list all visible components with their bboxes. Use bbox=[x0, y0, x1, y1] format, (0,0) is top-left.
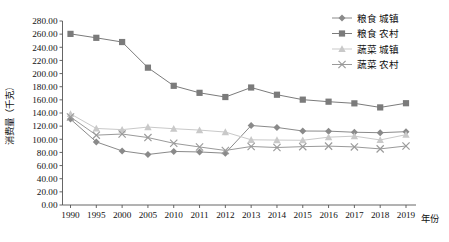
series-4 bbox=[67, 113, 410, 154]
data-point-marker bbox=[144, 151, 151, 158]
legend-item-3[interactable]: 蔬菜 城镇 bbox=[332, 44, 399, 55]
data-point-marker bbox=[274, 92, 280, 98]
data-point-marker bbox=[299, 128, 306, 135]
legend-item-4[interactable]: 蔬菜 农村 bbox=[332, 59, 399, 70]
data-point-marker bbox=[377, 104, 383, 110]
data-point-marker bbox=[119, 39, 125, 45]
data-point-marker bbox=[67, 31, 73, 37]
x-tick-label: 2013 bbox=[242, 210, 261, 220]
y-tick-label: 140.00 bbox=[32, 108, 58, 118]
legend-marker-square-icon bbox=[339, 30, 345, 36]
legend-label: 粮食 农村 bbox=[357, 28, 399, 39]
legend-item-1[interactable]: 粮食 城镇 bbox=[332, 13, 399, 24]
data-point-marker bbox=[325, 99, 331, 105]
y-tick-label: 260.00 bbox=[32, 29, 58, 39]
y-tick-label: 220.00 bbox=[32, 56, 58, 66]
y-tick-label: 160.00 bbox=[32, 95, 58, 105]
data-point-marker bbox=[351, 100, 357, 106]
y-tick-label: 20.00 bbox=[37, 187, 58, 197]
legend-item-2[interactable]: 粮食 农村 bbox=[332, 28, 399, 39]
data-point-marker bbox=[119, 147, 126, 154]
chart-legend: 粮食 城镇粮食 农村蔬菜 城镇蔬菜 农村 bbox=[332, 13, 399, 71]
y-tick-label: 200.00 bbox=[32, 69, 58, 79]
x-tick-label: 2005 bbox=[139, 210, 158, 220]
y-tick-label: 280.00 bbox=[32, 16, 58, 26]
x-tick-label: 1990 bbox=[61, 210, 80, 220]
y-tick-label: 240.00 bbox=[32, 43, 58, 53]
x-tick-label: 2017 bbox=[345, 210, 364, 220]
x-tick-label: 2014 bbox=[268, 210, 287, 220]
legend-label: 粮食 城镇 bbox=[357, 13, 399, 24]
line-chart: 0.0020.0040.0060.0080.00100.00120.00140.… bbox=[0, 0, 449, 242]
y-tick-label: 80.00 bbox=[37, 148, 58, 158]
x-tick-label: 2019 bbox=[397, 210, 416, 220]
legend-marker-diamond-icon bbox=[339, 15, 346, 22]
data-point-marker bbox=[403, 100, 409, 106]
legend-label: 蔬菜 城镇 bbox=[357, 44, 399, 55]
y-tick-label: 180.00 bbox=[32, 82, 58, 92]
data-point-marker bbox=[222, 94, 228, 100]
data-point-marker bbox=[300, 97, 306, 103]
data-point-marker bbox=[377, 129, 384, 136]
x-tick-label: 2010 bbox=[165, 210, 184, 220]
x-axis-tick-labels: 1990199520002005201020112012201320142015… bbox=[61, 210, 415, 220]
data-point-marker bbox=[171, 83, 177, 89]
y-tick-label: 100.00 bbox=[32, 135, 58, 145]
x-tick-label: 2018 bbox=[371, 210, 390, 220]
chart-container: 0.0020.0040.0060.0080.00100.00120.00140.… bbox=[0, 0, 449, 242]
y-tick-label: 120.00 bbox=[32, 121, 58, 131]
x-tick-label: 2011 bbox=[191, 210, 209, 220]
series-3 bbox=[67, 110, 410, 143]
y-tick-label: 0.00 bbox=[41, 200, 57, 210]
x-tick-label: 2015 bbox=[294, 210, 313, 220]
x-axis-title: 年份 bbox=[421, 213, 440, 224]
data-point-marker bbox=[248, 84, 254, 90]
y-tick-label: 40.00 bbox=[37, 174, 58, 184]
data-point-marker bbox=[170, 148, 177, 155]
x-tick-label: 1995 bbox=[87, 210, 106, 220]
y-axis-title: 消费量（千克） bbox=[4, 82, 15, 145]
x-tick-label: 2012 bbox=[216, 210, 235, 220]
data-point-marker bbox=[145, 65, 151, 71]
data-point-marker bbox=[93, 35, 99, 41]
data-point-marker bbox=[196, 90, 202, 96]
x-tick-label: 2000 bbox=[113, 210, 132, 220]
data-point-marker bbox=[273, 124, 280, 131]
x-tick-label: 2016 bbox=[319, 210, 338, 220]
y-tick-label: 60.00 bbox=[37, 161, 58, 171]
y-axis-tick-labels: 0.0020.0040.0060.0080.00100.00120.00140.… bbox=[32, 16, 58, 210]
legend-label: 蔬菜 农村 bbox=[357, 59, 399, 70]
